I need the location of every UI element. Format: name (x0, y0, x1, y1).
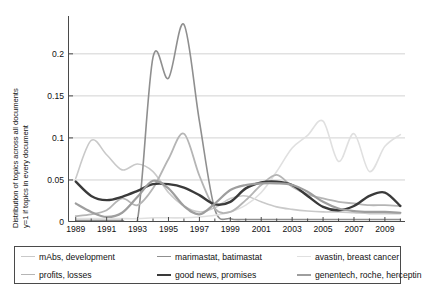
axis-spines (69, 16, 406, 222)
legend-label-profits-losses: profits, losses (39, 270, 92, 280)
legend-label-genentech-roche-herceptin: genentech, roche, herceptin (315, 270, 422, 280)
y-axis-tick-labels: 00.050.10.150.2 (28, 16, 64, 222)
y-axis-tick-label: 0.2 (30, 49, 64, 59)
chart-legend: mAbs, development marimastat, batimastat… (14, 246, 401, 284)
x-axis-tick-label: 1999 (221, 224, 240, 234)
x-axis-tick-label: 1997 (190, 224, 209, 234)
y-axis-title-line-1: Distribution of topics across all docume… (11, 88, 21, 228)
x-axis-tick-label: 1993 (128, 224, 147, 234)
legend-swatch-genentech-roche-herceptin (297, 274, 311, 276)
series-line-3 (76, 133, 401, 216)
legend-swatch-mabs-development (21, 256, 35, 257)
x-axis-tick-label: 2003 (283, 224, 302, 234)
legend-swatch-good-news-promises (157, 274, 171, 276)
legend-label-marimastat-batimastat: marimastat, batimastat (175, 252, 262, 262)
x-axis-tick-label: 2009 (375, 224, 394, 234)
x-axis-tick-label: 2001 (252, 224, 271, 234)
legend-item-profits-losses[interactable]: profits, losses (15, 265, 155, 284)
legend-item-good-news-promises[interactable]: good news, promises (155, 265, 295, 284)
legend-swatch-marimastat-batimastat (157, 256, 171, 257)
y-axis-tick-label: 0.15 (30, 91, 64, 101)
legend-label-good-news-promises: good news, promises (175, 270, 256, 280)
legend-swatch-profits-losses (21, 274, 35, 275)
y-axis-tick-label: 0 (30, 217, 64, 227)
x-axis-tick-labels: 1989199119931995199719992001200320052007… (68, 224, 405, 238)
legend-item-avastin-breast-cancer[interactable]: avastin, breast cancer (295, 247, 400, 266)
legend-row-2: profits, losses good news, promises gene… (15, 265, 400, 284)
x-axis-tick-label: 1991 (97, 224, 116, 234)
x-axis-tick-label: 1995 (159, 224, 178, 234)
x-axis-tick-label: 2005 (314, 224, 333, 234)
legend-label-mabs-development: mAbs, development (39, 252, 115, 262)
x-axis-tick-label: 1989 (66, 224, 85, 234)
legend-item-mabs-development[interactable]: mAbs, development (15, 247, 155, 266)
x-axis-tick-label: 2007 (344, 224, 363, 234)
legend-label-avastin-breast-cancer: avastin, breast cancer (315, 252, 399, 262)
y-axis-tick-label: 0.05 (30, 175, 64, 185)
legend-row-1: mAbs, development marimastat, batimastat… (15, 247, 400, 266)
legend-swatch-avastin-breast-cancer (297, 256, 311, 257)
chart-canvas (68, 16, 405, 222)
legend-item-genentech-roche-herceptin[interactable]: genentech, roche, herceptin (295, 265, 400, 284)
plot-area (68, 16, 405, 222)
y-axis-tick-label: 0.1 (30, 133, 64, 143)
legend-item-marimastat-batimastat[interactable]: marimastat, batimastat (155, 247, 295, 266)
